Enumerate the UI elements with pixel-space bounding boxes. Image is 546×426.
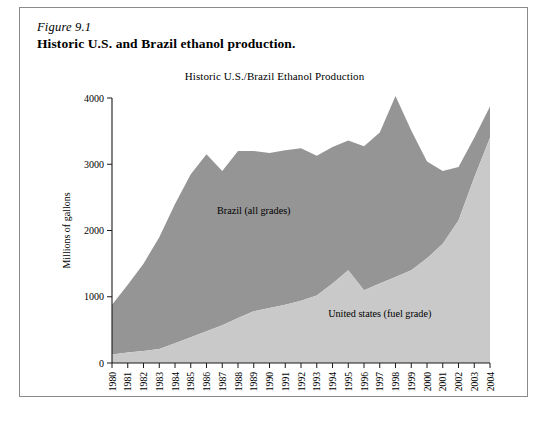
figure-frame: Figure 9.1 Historic U.S. and Brazil etha… bbox=[19, 7, 528, 397]
svg-text:1980: 1980 bbox=[107, 372, 118, 391]
svg-text:1989: 1989 bbox=[248, 372, 259, 391]
svg-text:2000: 2000 bbox=[422, 372, 433, 391]
svg-text:1981: 1981 bbox=[122, 372, 133, 391]
svg-text:1994: 1994 bbox=[327, 372, 338, 391]
svg-text:0: 0 bbox=[99, 358, 104, 369]
svg-text:3000: 3000 bbox=[84, 159, 104, 170]
svg-text:United states (fuel grade): United states (fuel grade) bbox=[328, 308, 431, 320]
svg-text:Millions of gallons: Millions of gallons bbox=[61, 192, 72, 268]
svg-text:1986: 1986 bbox=[201, 372, 212, 391]
svg-text:1999: 1999 bbox=[406, 372, 417, 391]
svg-text:2001: 2001 bbox=[437, 372, 448, 391]
svg-text:4000: 4000 bbox=[84, 93, 104, 104]
svg-text:Brazil (all grades): Brazil (all grades) bbox=[217, 205, 291, 217]
svg-text:1991: 1991 bbox=[280, 372, 291, 391]
svg-text:1984: 1984 bbox=[170, 372, 181, 391]
area-chart: 01000200030004000Millions of gallons1980… bbox=[20, 8, 529, 398]
svg-text:1992: 1992 bbox=[296, 372, 307, 391]
svg-text:1000: 1000 bbox=[84, 291, 104, 302]
svg-text:2002: 2002 bbox=[453, 372, 464, 391]
svg-text:1988: 1988 bbox=[233, 372, 244, 391]
svg-text:1990: 1990 bbox=[264, 372, 275, 391]
svg-text:1998: 1998 bbox=[390, 372, 401, 391]
svg-text:1982: 1982 bbox=[138, 372, 149, 391]
svg-text:1996: 1996 bbox=[359, 372, 370, 391]
svg-text:1995: 1995 bbox=[343, 372, 354, 391]
svg-text:1993: 1993 bbox=[311, 372, 322, 391]
svg-text:1985: 1985 bbox=[185, 372, 196, 391]
svg-text:2000: 2000 bbox=[84, 225, 104, 236]
chart-plot-area: 01000200030004000Millions of gallons1980… bbox=[20, 8, 529, 398]
svg-text:2004: 2004 bbox=[485, 372, 496, 391]
svg-text:1997: 1997 bbox=[374, 372, 385, 391]
svg-text:1983: 1983 bbox=[154, 372, 165, 391]
svg-text:2003: 2003 bbox=[469, 372, 480, 391]
svg-text:1987: 1987 bbox=[217, 372, 228, 391]
